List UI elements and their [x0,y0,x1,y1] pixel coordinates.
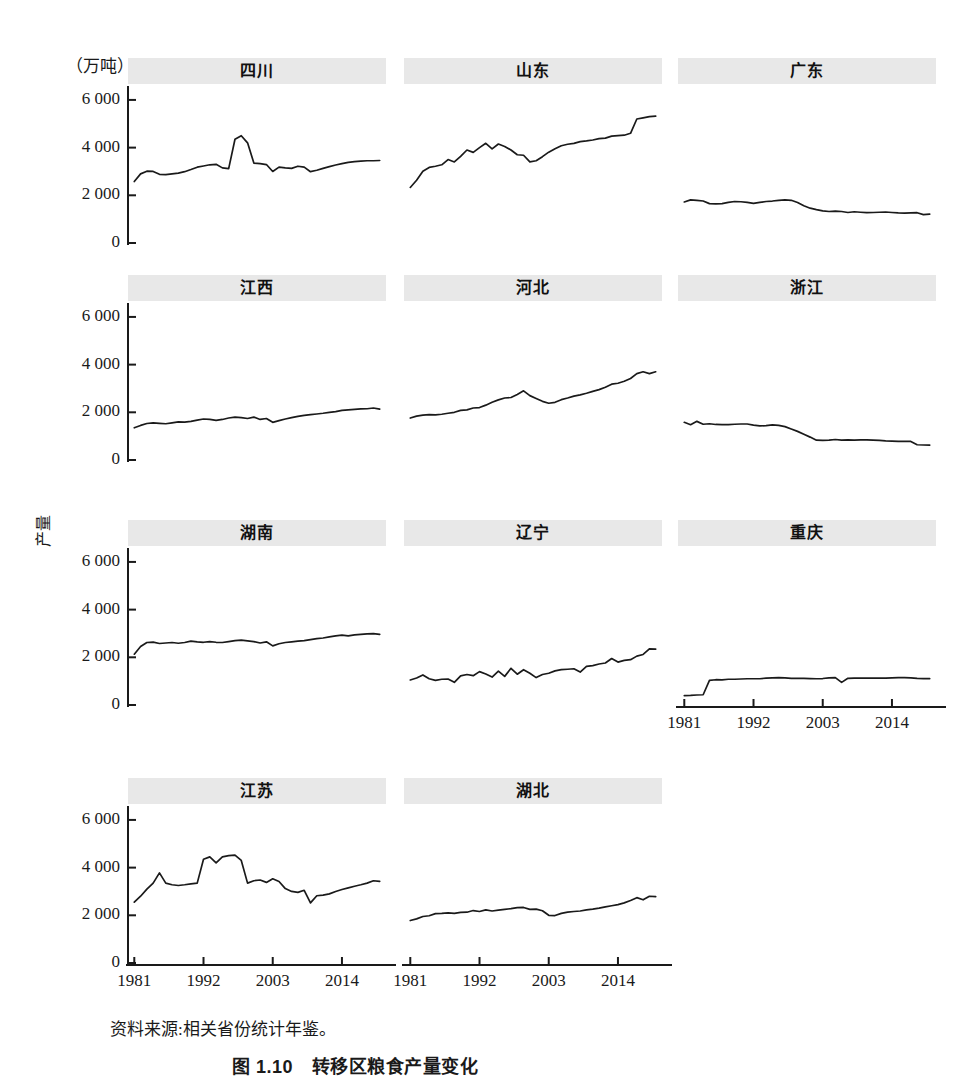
source-note: 资料来源:相关省份统计年鉴。 [110,1015,336,1040]
y-tick-label: 4 000 [58,857,120,877]
y-tick-label: 2 000 [58,904,120,924]
y-tick-label: 0 [58,232,120,252]
x-tick-label: 2003 [519,971,579,991]
x-tick-label: 2003 [793,713,853,733]
x-tick-label: 2003 [243,971,303,991]
x-tick-label: 1981 [380,971,440,991]
y-tick-label: 2 000 [58,646,120,666]
panel-重庆: 重庆1981199220032014 [608,520,956,765]
series-line-重庆 [684,678,929,696]
y-tick-label: 0 [58,449,120,469]
x-tick-label: 2014 [588,971,648,991]
y-tick-label: 6 000 [58,306,120,326]
y-tick-label: 2 000 [58,401,120,421]
y-tick-label: 6 000 [58,551,120,571]
panel-湖北: 湖北1981199220032014 [334,778,682,1023]
y-tick-label: 4 000 [58,137,120,157]
series-line-湖北 [410,896,655,920]
panel-plot [608,275,957,522]
panel-浙江: 浙江 [608,275,956,520]
y-tick-label: 0 [58,694,120,714]
y-tick-label: 6 000 [58,89,120,109]
y-tick-label: 2 000 [58,184,120,204]
figure-root: （万吨） 产量 四川02 0004 0006 000山东广东江西02 0004 … [0,0,957,1082]
figure-caption: 图 1.10 转移区粮食产量变化 [232,1052,478,1078]
x-tick-label: 1992 [724,713,784,733]
y-tick-label: 4 000 [58,599,120,619]
panel-广东: 广东 [608,58,956,303]
x-tick-label: 1981 [654,713,714,733]
y-tick-label: 0 [58,952,120,972]
series-line-广东 [684,200,929,215]
series-line-浙江 [684,421,929,445]
x-tick-label: 2014 [862,713,922,733]
y-tick-label: 4 000 [58,354,120,374]
y-tick-label: 6 000 [58,809,120,829]
panel-plot [608,58,957,305]
x-tick-label: 1992 [450,971,510,991]
x-tick-label: 1981 [104,971,164,991]
x-tick-label: 1992 [174,971,234,991]
y-axis-title: 产量 [30,507,54,547]
